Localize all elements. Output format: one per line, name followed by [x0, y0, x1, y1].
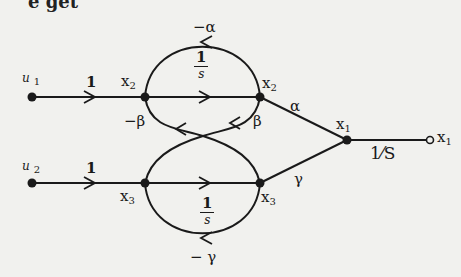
label-x2-right: x2 [262, 76, 277, 93]
label-x2-left: x2 [121, 74, 136, 91]
node-x1 [343, 136, 352, 145]
signal-flow-graph-figure: e get [0, 0, 461, 277]
node-u2 [28, 179, 37, 188]
gain-x2-integrator: 1 s [194, 50, 208, 80]
label-x1-output: x1 [437, 130, 452, 147]
branch-cross-beta [145, 97, 260, 183]
node-x2-left [141, 93, 150, 102]
gain-x2-self-loop: −α [193, 20, 216, 35]
node-u1 [28, 93, 37, 102]
gain-cross-minus-beta: −β [124, 114, 145, 129]
node-x2-right [256, 93, 265, 102]
gain-alpha: α [290, 99, 300, 114]
gain-output: 1⁄S [370, 143, 395, 163]
label-x3-left: x3 [120, 189, 135, 206]
node-x1-output [427, 137, 434, 144]
label-u2: u2 [22, 158, 40, 175]
label-x1: x1 [336, 117, 351, 134]
branch-gamma [260, 140, 347, 183]
label-u1: u1 [22, 70, 40, 87]
label-x3-right: x3 [261, 190, 276, 207]
branch-alpha [260, 97, 347, 140]
signal-flow-graph-svg [0, 0, 461, 277]
gain-cross-beta: β [253, 114, 262, 129]
branch-cross-minus-beta [145, 97, 260, 183]
node-x3-left [141, 179, 150, 188]
gain-u2-x3: 1 [86, 161, 96, 176]
gain-x3-integrator: 1 s [200, 196, 214, 226]
node-x3-right [256, 179, 265, 188]
gain-x3-self-loop: − γ [190, 250, 216, 265]
gain-gamma: γ [294, 172, 303, 187]
gain-u1-x2: 1 [86, 75, 96, 90]
